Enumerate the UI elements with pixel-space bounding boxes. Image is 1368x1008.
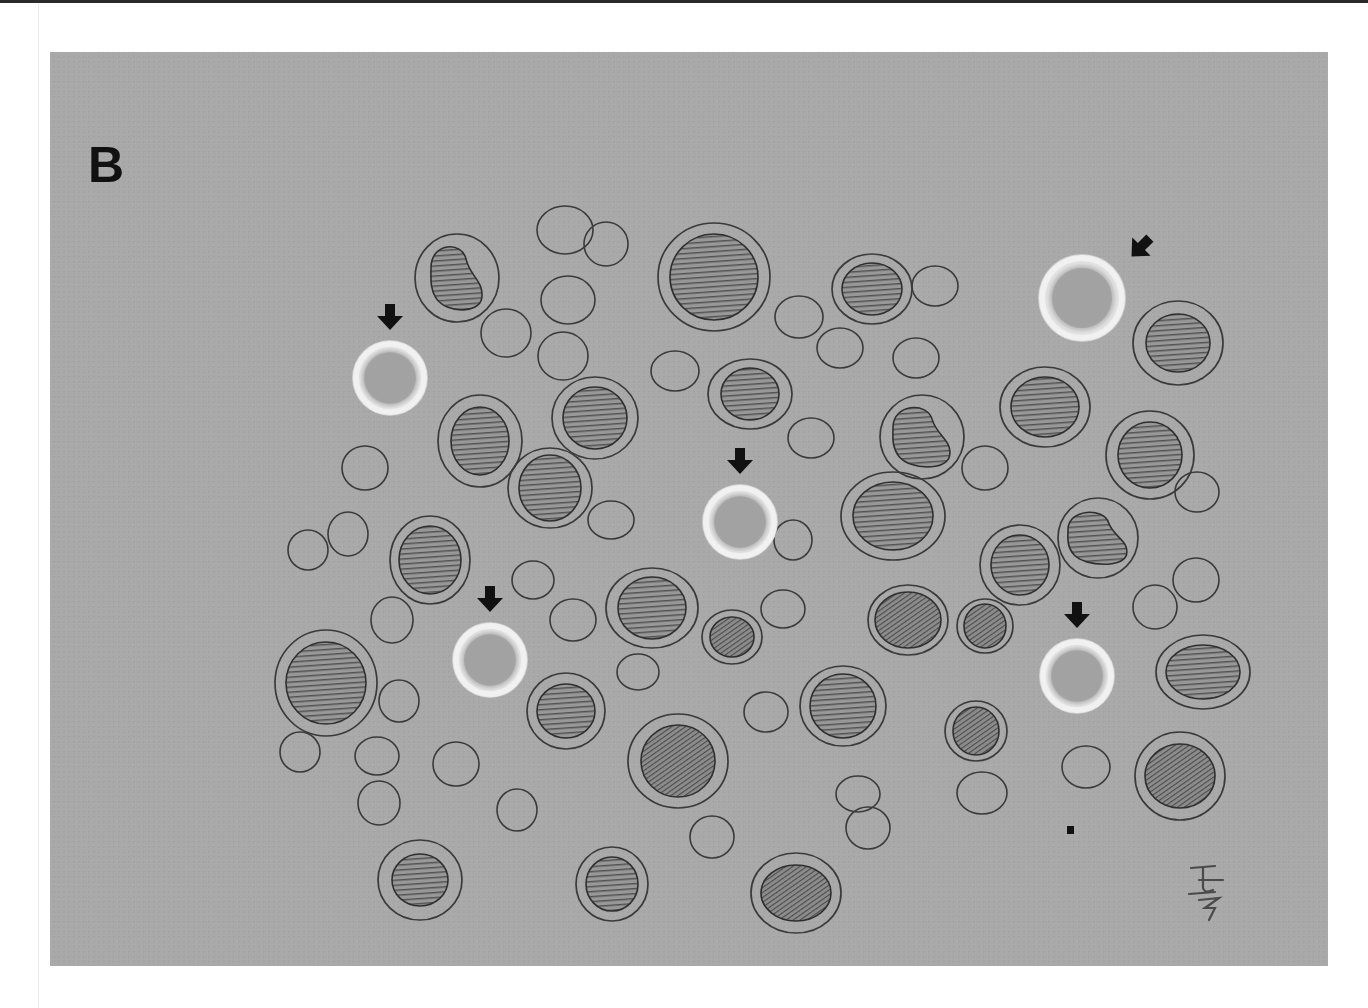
anucleate-cell	[893, 338, 939, 378]
arrow-down-icon	[377, 304, 403, 330]
anucleate-cell	[1173, 558, 1219, 602]
arrow-down-icon	[1122, 229, 1159, 266]
anucleate-cell	[1062, 746, 1110, 788]
nucleated-cell	[1135, 732, 1225, 820]
nucleated-cell	[378, 840, 462, 920]
anucleate-cell	[690, 816, 734, 858]
nucleated-cell	[868, 585, 948, 655]
nucleated-cell	[800, 666, 886, 746]
anucleate-cell	[775, 296, 823, 338]
nucleated-cell	[841, 472, 945, 560]
nucleated-cell	[527, 673, 605, 749]
nucleated-cell	[275, 630, 377, 736]
anucleate-cell	[1133, 585, 1177, 629]
nucleated-cell	[508, 448, 592, 528]
nucleated-cell	[708, 359, 792, 429]
anucleate-cell	[541, 276, 595, 324]
nucleated-cell	[628, 714, 728, 808]
anucleate-cell	[912, 266, 958, 306]
highlighted-cell	[702, 448, 778, 560]
nucleated-cell	[576, 847, 648, 921]
nucleated-cell	[957, 599, 1013, 653]
arrow-down-icon	[477, 586, 503, 612]
anucleate-cell	[817, 328, 863, 368]
anucleate-cell	[342, 446, 388, 490]
anucleate-cell	[358, 781, 400, 825]
anucleate-cell	[584, 222, 628, 266]
signature-icon	[1185, 858, 1245, 928]
anucleate-cell	[617, 654, 659, 690]
anucleate-cell	[328, 512, 368, 556]
cell-illustration	[0, 0, 1368, 1008]
nucleated-cell	[1133, 301, 1223, 385]
anucleate-cell	[550, 599, 596, 641]
anucleate-cell	[774, 520, 812, 560]
arrow-down-icon	[1064, 602, 1090, 628]
nucleated-cell	[945, 701, 1007, 761]
nucleated-cell	[880, 395, 964, 479]
anucleate-cell	[957, 772, 1007, 814]
anucleate-cell	[379, 680, 419, 722]
nucleated-cell	[390, 516, 470, 604]
nucleated-cell	[1000, 367, 1090, 447]
anucleate-cell	[371, 597, 413, 643]
nucleated-cell	[606, 568, 698, 648]
anucleate-cell	[651, 351, 699, 391]
nucleated-cell	[658, 223, 770, 331]
marks-group	[1067, 826, 1074, 834]
anucleate-cell	[538, 332, 588, 380]
highlighted-cell	[352, 304, 428, 416]
highlighted-cell	[1039, 602, 1115, 714]
anucleate-cell	[761, 590, 805, 628]
highlighted-cell	[452, 586, 528, 698]
anucleate-cell	[846, 807, 890, 849]
nucleated-cell	[832, 254, 912, 324]
nucleated-cell	[702, 610, 762, 664]
small-square-mark	[1067, 826, 1074, 834]
nucleated-cell	[415, 234, 499, 322]
anucleate-cell	[288, 530, 328, 570]
anucleate-cell	[512, 561, 554, 599]
nucleated-cell	[438, 395, 522, 487]
anucleate-cell	[1175, 472, 1219, 512]
anucleate-cell	[588, 501, 634, 539]
nucleated-cell	[980, 525, 1060, 605]
anucleate-cell	[280, 732, 320, 772]
anucleate-cell	[962, 446, 1008, 490]
nucleated-cell	[1156, 635, 1250, 709]
nucleated-cell	[1058, 498, 1138, 578]
nucleated-cell	[1106, 411, 1194, 499]
anucleate-cell	[788, 418, 834, 458]
highlighted-cell	[1038, 229, 1159, 342]
nucleated-cell	[751, 853, 841, 933]
anucleate-cell	[744, 692, 788, 732]
anucleate-cell	[355, 737, 399, 775]
nucleated-cell	[552, 377, 638, 459]
anucleate-cell	[836, 776, 880, 812]
anucleate-cell	[497, 789, 537, 831]
arrow-down-icon	[727, 448, 753, 474]
anucleate-cell	[481, 309, 531, 357]
anucleate-cell	[433, 742, 479, 786]
